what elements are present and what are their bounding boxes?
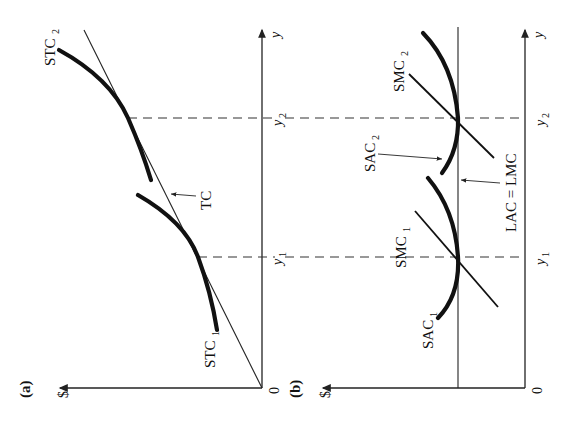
panel-a-quantity-label: y (268, 31, 283, 40)
svg-text:STC: STC (202, 340, 218, 368)
svg-text:STC: STC (42, 38, 58, 66)
sac2-label: SAC 2 (362, 135, 381, 172)
stc1-curve (138, 195, 217, 330)
sac2-curve (423, 33, 458, 173)
lac-lmc-label: LAC = LMC (503, 154, 519, 232)
cost-curves-figure: (a) $ 0 y y 2 y 1 TC STC 2 STC 1 (0, 0, 575, 428)
sac1-curve (428, 178, 458, 318)
panel-a-y1-tick-label: y 1 (270, 252, 288, 267)
svg-text:2: 2 (50, 29, 61, 34)
panel-a-origin-label: 0 (267, 387, 282, 394)
panel-b-label: (b) (287, 380, 304, 398)
lac-lmc-pointer (461, 180, 500, 183)
panel-b-quantity-label: y (531, 31, 546, 40)
svg-text:1: 1 (210, 331, 221, 336)
panel-a-dollar-label: $ (56, 391, 71, 398)
stc2-label: STC 2 (42, 29, 61, 66)
stc2-curve (59, 50, 151, 180)
panel-b-dollar-label: $ (318, 391, 333, 398)
panel-b-y2-tick-label: y 2 (533, 113, 551, 128)
svg-text:SAC: SAC (420, 320, 436, 349)
panel-b-y1-tick-label: y 1 (533, 252, 551, 267)
svg-text:y: y (533, 119, 548, 128)
svg-text:2: 2 (370, 135, 381, 140)
svg-text:y: y (533, 258, 548, 267)
panel-a-y2-tick-label: y 2 (270, 113, 288, 128)
tc-label: TC (198, 191, 214, 210)
sac2-pointer (378, 154, 442, 159)
svg-text:1: 1 (401, 227, 412, 232)
svg-text:y: y (270, 258, 285, 267)
smc1-line (415, 211, 498, 307)
svg-text:1: 1 (540, 252, 551, 257)
smc2-label: SMC 2 (391, 51, 410, 92)
svg-text:2: 2 (277, 113, 288, 118)
svg-text:SMC: SMC (393, 236, 409, 268)
sac1-label: SAC 1 (420, 312, 439, 349)
panel-a (59, 30, 275, 388)
tc-line (84, 30, 262, 388)
panel-a-label: (a) (17, 381, 34, 399)
smc1-label: SMC 1 (393, 227, 412, 268)
svg-text:2: 2 (399, 51, 410, 56)
stc1-label: STC 1 (202, 331, 221, 368)
svg-text:1: 1 (428, 312, 439, 317)
tc-pointer (171, 194, 196, 196)
svg-text:2: 2 (540, 113, 551, 118)
panel-b-origin-label: 0 (530, 387, 545, 394)
svg-text:1: 1 (277, 252, 288, 257)
svg-text:y: y (270, 119, 285, 128)
panel-a-labels: (a) $ 0 y y 2 y 1 TC STC 2 STC 1 (17, 29, 288, 398)
svg-text:SMC: SMC (391, 60, 407, 92)
svg-text:SAC: SAC (362, 143, 378, 172)
